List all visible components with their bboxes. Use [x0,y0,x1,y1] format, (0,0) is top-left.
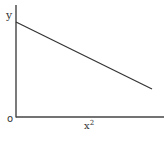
x-axis-label-exponent: 2 [90,119,94,127]
origin-label: o [7,114,13,124]
x-axis-label: x2 [84,120,94,131]
y-axis-label: y [6,10,12,21]
data-line [16,22,152,89]
chart: y o x2 [0,0,164,141]
chart-canvas [0,0,164,141]
